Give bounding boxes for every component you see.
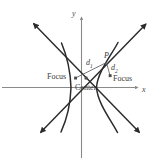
axes-group [2,17,138,158]
distance-d2-line [107,63,111,76]
distance-d2-label: d2 [111,64,118,74]
focus-left-label: Focus [47,73,66,81]
focus-right-point [109,74,112,77]
center-point [85,77,88,80]
distance-d1-subscript: 1 [90,63,93,69]
x-axis-label: x [142,86,146,94]
y-axis-label: y [72,10,76,18]
distance-d1-label: d1 [86,59,93,69]
hyperbola-figure: y x Focus Focus Center P d1 d2 [0,0,155,161]
point-p-label: P [104,52,109,60]
focus-right-label: Focus [113,75,132,83]
focus-left-point [74,77,77,80]
distance-d2-subscript: 2 [115,68,118,74]
center-label: Center [75,84,96,92]
